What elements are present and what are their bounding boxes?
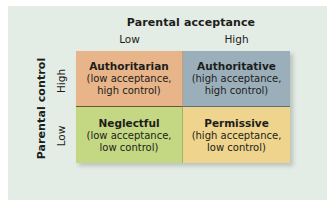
parenting-styles-figure: Parental acceptance Low High Parental co… [8,6,327,200]
cell-permissive-subtitle: (high acceptance, low control) [192,130,282,154]
cell-authoritarian-title: Authoritarian [89,60,169,73]
row-tick-high: High [55,54,67,108]
cell-authoritarian: Authoritarian (low acceptance, high cont… [76,51,183,107]
cell-authoritarian-subtitle: (low acceptance, high control) [87,73,172,97]
cell-authoritative-subtitle: (high acceptance, high control) [192,73,282,97]
cell-neglectful: Neglectful (low acceptance, low control) [76,107,183,163]
cell-authoritative: Authoritative (high acceptance, high con… [183,51,290,107]
cell-permissive: Permissive (high acceptance, low control… [183,107,290,163]
row-tick-low: Low [55,109,67,163]
row-axis-title: Parental control [35,53,48,165]
column-tick-low: Low [76,33,183,45]
cell-neglectful-subtitle: (low acceptance, low control) [87,130,172,154]
cell-permissive-title: Permissive [204,117,269,130]
cell-neglectful-title: Neglectful [98,117,159,130]
column-tick-high: High [183,33,290,45]
parenting-styles-matrix: Authoritarian (low acceptance, high cont… [76,51,290,163]
column-axis-title: Parental acceptance [84,16,298,29]
cell-authoritative-title: Authoritative [197,60,276,73]
